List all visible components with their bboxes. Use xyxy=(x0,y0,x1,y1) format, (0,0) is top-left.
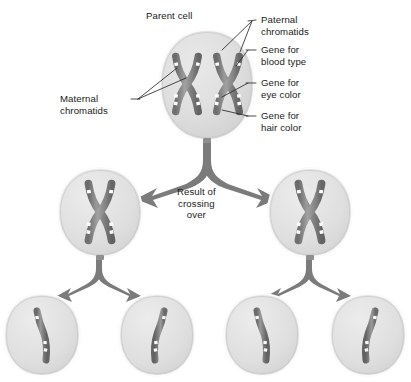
gamete-cell-4 xyxy=(330,294,406,376)
label-parent-cell: Parent cell xyxy=(146,10,192,22)
recombinant-chromosome-left xyxy=(86,184,113,241)
label-maternal-chromatids: Maternal chromatids xyxy=(60,93,108,116)
gamete-cell-3 xyxy=(224,294,300,376)
gamete-cell-1 xyxy=(4,294,80,376)
daughter-cell-left xyxy=(58,168,142,260)
maternal-chromosome-pair xyxy=(174,56,201,111)
gamete-cell-2 xyxy=(119,294,195,376)
gamete-chromatid-4 xyxy=(365,311,377,360)
arrow-right-daughter-to-gametes xyxy=(267,258,351,302)
paternal-chromosome-pair xyxy=(215,56,242,111)
gamete-chromatid-3 xyxy=(255,311,267,360)
label-gene-blood-type: Gene for blood type xyxy=(261,44,306,67)
leader-paternal-chromatids xyxy=(222,20,256,52)
leader-gene-blood-type xyxy=(236,50,256,66)
gamete-chromatid-2 xyxy=(154,311,166,360)
label-result-of-crossing-over: Result of crossing over xyxy=(177,186,216,221)
parent-cell xyxy=(160,30,254,143)
recombinant-chromosome-right xyxy=(296,184,323,241)
label-gene-eye-color: Gene for eye color xyxy=(261,77,301,100)
leader-gene-eye-color xyxy=(222,83,256,97)
leader-maternal-chromatids xyxy=(131,68,186,99)
gamete-chromatid-1 xyxy=(35,311,47,360)
leader-gene-hair-color xyxy=(222,110,256,116)
daughter-cell-right xyxy=(268,168,352,260)
label-paternal-chromatids: Paternal chromatids xyxy=(261,14,309,37)
label-gene-hair-color: Gene for hair color xyxy=(261,110,301,133)
arrow-left-daughter-to-gametes xyxy=(57,258,141,302)
diagram-canvas: Parent cell Maternal chromatids Paternal… xyxy=(0,0,411,382)
